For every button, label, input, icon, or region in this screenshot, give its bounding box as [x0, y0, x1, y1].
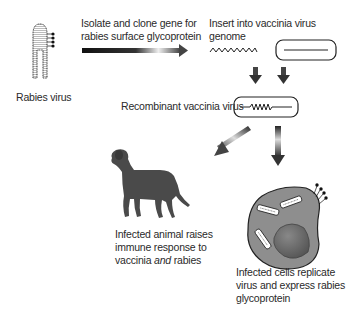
cells-label-line2: virus and express rabies [236, 279, 345, 292]
step3-label: Recombinant vaccinia virus [121, 100, 244, 113]
step2-label: Insert into vaccinia virus genome [209, 17, 355, 43]
rabies-virus-icon [33, 24, 55, 78]
animal-label-line2: immune response to [115, 241, 207, 254]
down-arrow-icon [249, 67, 290, 84]
cells-label-line3: glycoprotein [236, 292, 290, 305]
animal-label-line1: Infected animal raises [115, 228, 213, 241]
diagonal-arrow-icon [214, 126, 251, 156]
vaccinia-genome-icon [276, 40, 336, 60]
animal-label-line3: vaccinia and rabies [115, 254, 201, 267]
dog-icon [111, 149, 190, 218]
rabies-virus-label: Rabies virus [16, 91, 71, 104]
down-arrow-icon [271, 126, 285, 166]
gene-zigzag-icon [210, 48, 257, 52]
step1-label-line1: Isolate and clone gene for [81, 17, 197, 30]
step1-label-line2: rabies surface glycoprotein [81, 30, 201, 43]
infected-cell-icon [248, 183, 328, 269]
cells-label-line1: Infected cells replicate [236, 266, 335, 279]
gradient-arrow-icon [82, 44, 188, 57]
